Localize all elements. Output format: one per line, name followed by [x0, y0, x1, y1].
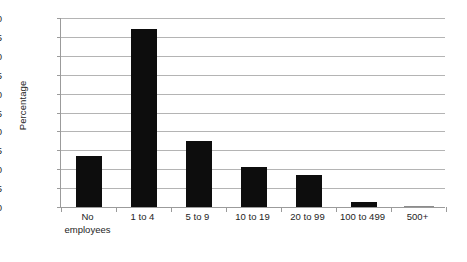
- bar-slot: [116, 18, 171, 207]
- x-tick-label-line: 20 to 99: [290, 211, 324, 222]
- bar: [186, 141, 212, 207]
- y-tick-label: 40: [0, 50, 2, 61]
- bar: [404, 206, 434, 207]
- x-tick-label-line: 500+: [407, 211, 428, 222]
- bar-slot: [171, 18, 226, 207]
- plot-area: [60, 18, 445, 207]
- bar-slot: [226, 18, 281, 207]
- bars: [61, 18, 445, 207]
- y-tick-label: 10: [0, 164, 2, 175]
- bar-slot: [61, 18, 116, 207]
- y-tick-label: 50: [0, 13, 2, 24]
- bar: [76, 156, 102, 207]
- y-tick-label: 45: [0, 31, 2, 42]
- gridline: [61, 207, 445, 208]
- y-tick-label: 25: [0, 107, 2, 118]
- bar: [241, 167, 267, 207]
- x-tick-label: 500+: [380, 211, 455, 224]
- x-tick-label-line: employees: [50, 224, 125, 237]
- y-tick-label: 20: [0, 126, 2, 137]
- bar: [131, 29, 157, 207]
- x-tick-label-line: 5 to 9: [186, 211, 210, 222]
- bar-slot: [281, 18, 336, 207]
- y-axis-title: Percentage: [14, 0, 32, 210]
- bar: [351, 202, 377, 207]
- y-tick-label: 30: [0, 88, 2, 99]
- y-tick-label: 5: [0, 183, 2, 194]
- y-axis-title-text: Percentage: [18, 80, 29, 130]
- x-tick-label-line: No: [81, 211, 93, 222]
- y-tick-label: 0: [0, 202, 2, 213]
- bar-slot: [391, 18, 446, 207]
- bar: [296, 175, 322, 208]
- x-axis-tick-labels: Noemployees1 to 45 to 910 to 1920 to 991…: [60, 211, 445, 257]
- y-tick-label: 15: [0, 145, 2, 156]
- bar-chart-figure: Percentage 05101520253035404550 Noemploy…: [0, 0, 467, 262]
- x-tick-label-line: 100 to 499: [340, 211, 385, 222]
- bar-slot: [336, 18, 391, 207]
- x-tick-label-line: 1 to 4: [131, 211, 155, 222]
- x-tick-label-line: 10 to 19: [235, 211, 269, 222]
- y-tick-label: 35: [0, 69, 2, 80]
